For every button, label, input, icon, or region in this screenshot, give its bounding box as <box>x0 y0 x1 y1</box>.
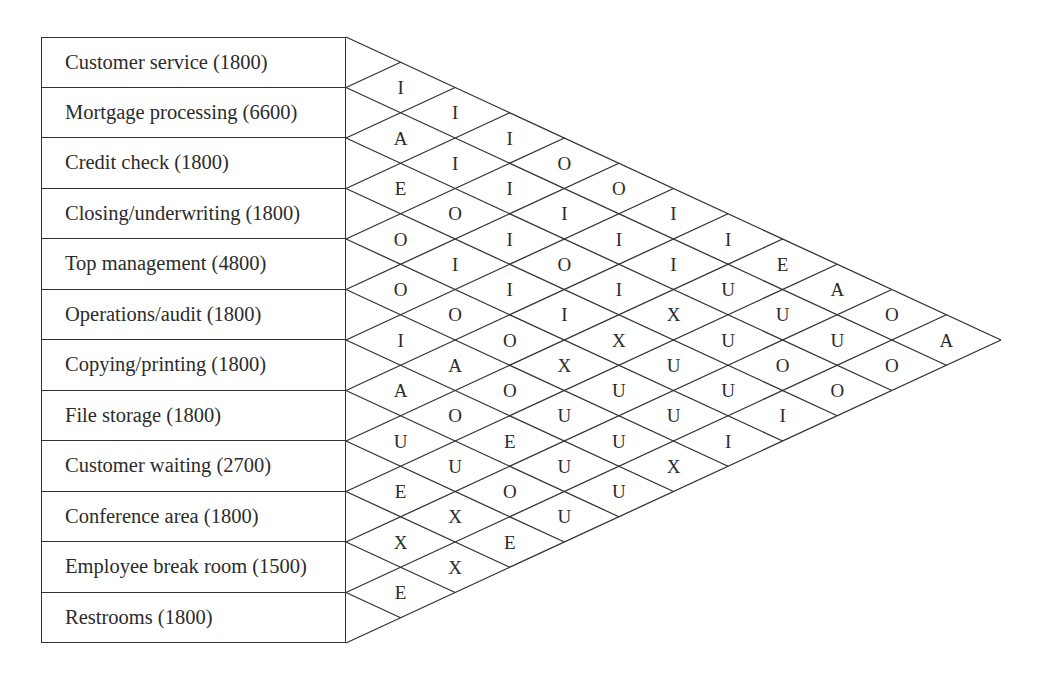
grid-line <box>346 315 946 593</box>
department-label: Mortgage processing (6600) <box>65 101 297 124</box>
relationship-code: U <box>721 330 735 351</box>
relationship-code: I <box>616 279 622 300</box>
relationship-code: U <box>394 431 408 452</box>
relationship-code: A <box>830 279 844 300</box>
relationship-code: O <box>776 355 790 376</box>
department-label: Customer service (1800) <box>65 51 268 74</box>
department-list: Customer service (1800) Mortgage process… <box>41 37 346 643</box>
relationship-code: I <box>725 229 731 250</box>
relationship-code: O <box>503 481 517 502</box>
relationship-code: U <box>667 405 681 426</box>
department-row-employee-break-room: Employee break room (1500) <box>41 542 346 593</box>
relationship-code: I <box>507 229 513 250</box>
relationship-code: I <box>452 102 458 123</box>
grid-line <box>346 62 401 87</box>
relationship-code: O <box>503 380 517 401</box>
department-label: Restrooms (1800) <box>65 606 212 629</box>
relationship-code: O <box>885 304 899 325</box>
relationship-code: U <box>448 456 462 477</box>
department-row-conference-area: Conference area (1800) <box>41 492 346 543</box>
relationship-code: U <box>557 506 571 527</box>
relationship-code: O <box>503 330 517 351</box>
relationship-code: O <box>448 304 462 325</box>
relationship-code: X <box>612 330 626 351</box>
grid-line <box>346 264 837 491</box>
department-row-file-storage: File storage (1800) <box>41 391 346 442</box>
department-label: Credit check (1800) <box>65 151 229 174</box>
department-row-credit-check: Credit check (1800) <box>41 138 346 189</box>
relationship-code: E <box>395 178 407 199</box>
department-row-copying-printing: Copying/printing (1800) <box>41 340 346 391</box>
relationship-code: U <box>612 481 626 502</box>
department-row-mortgage-processing: Mortgage processing (6600) <box>41 88 346 139</box>
relationship-code: X <box>667 304 681 325</box>
relationship-code: I <box>670 203 676 224</box>
relationship-code: A <box>448 355 462 376</box>
relationship-code: X <box>667 456 681 477</box>
relationship-code: O <box>557 254 571 275</box>
department-label: Closing/underwriting (1800) <box>65 202 300 225</box>
relationship-code: O <box>448 405 462 426</box>
relationship-code: U <box>612 431 626 452</box>
department-label: Conference area (1800) <box>65 505 259 528</box>
relationship-code: E <box>777 254 789 275</box>
relationship-code: O <box>394 279 408 300</box>
relationship-code: U <box>612 380 626 401</box>
department-row-closing-underwriting: Closing/underwriting (1800) <box>41 189 346 240</box>
department-row-customer-waiting: Customer waiting (2700) <box>41 441 346 492</box>
relationship-code: E <box>395 582 407 603</box>
relationship-code: U <box>667 355 681 376</box>
department-label: Customer waiting (2700) <box>65 454 271 477</box>
relationship-code: X <box>448 557 462 578</box>
grid-line <box>346 113 510 189</box>
relationship-code: O <box>448 203 462 224</box>
relationship-code: U <box>776 304 790 325</box>
department-row-top-management: Top management (4800) <box>41 239 346 290</box>
relationship-code: X <box>394 532 408 553</box>
department-label: Top management (4800) <box>65 252 266 275</box>
relationship-code: I <box>397 77 403 98</box>
department-label: Operations/audit (1800) <box>65 303 261 326</box>
relationship-code: U <box>721 380 735 401</box>
relationship-code: I <box>452 153 458 174</box>
relationship-code: I <box>507 128 513 149</box>
relationship-code: U <box>557 405 571 426</box>
relationship-code: I <box>561 203 567 224</box>
relationship-code: I <box>561 304 567 325</box>
relationship-code: O <box>394 229 408 250</box>
relationship-code: I <box>670 254 676 275</box>
grid-line <box>346 189 837 416</box>
relationship-code: I <box>507 178 513 199</box>
relationship-code: E <box>504 532 516 553</box>
relationship-code: I <box>616 229 622 250</box>
relationship-code: O <box>885 355 899 376</box>
relationship-code: I <box>507 279 513 300</box>
relationship-code: A <box>394 128 408 149</box>
grid-line <box>346 391 619 517</box>
relationship-code: U <box>721 279 735 300</box>
department-row-operations-audit: Operations/audit (1800) <box>41 290 346 341</box>
grid-line <box>346 492 510 568</box>
relationship-code: I <box>725 431 731 452</box>
relationship-grid-lines <box>346 37 1001 643</box>
department-label: Copying/printing (1800) <box>65 353 266 376</box>
relationship-code: O <box>830 380 844 401</box>
relationship-code: O <box>612 178 626 199</box>
relationship-code: E <box>504 431 516 452</box>
relationship-code: X <box>448 506 462 527</box>
grid-line <box>346 163 619 289</box>
department-label: Employee break room (1500) <box>65 555 307 578</box>
department-row-customer-service: Customer service (1800) <box>41 37 346 88</box>
relationship-code: I <box>452 254 458 275</box>
department-label: File storage (1800) <box>65 404 221 427</box>
relationship-code: U <box>557 456 571 477</box>
relationship-code: E <box>395 481 407 502</box>
relationship-code: U <box>830 330 844 351</box>
relationship-code: A <box>394 380 408 401</box>
grid-line <box>346 88 946 366</box>
relationship-code: A <box>940 330 954 351</box>
department-row-restrooms: Restrooms (1800) <box>41 593 346 644</box>
relationship-code: I <box>397 330 403 351</box>
grid-line <box>346 593 401 618</box>
relationship-code: X <box>557 355 571 376</box>
